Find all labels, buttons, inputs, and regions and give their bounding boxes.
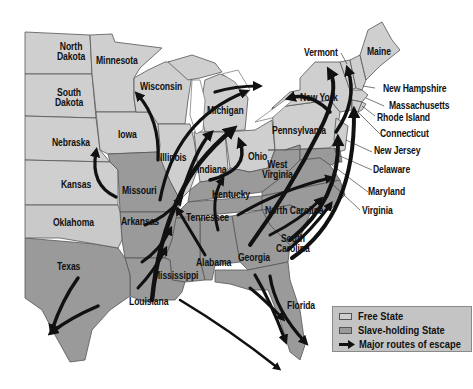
label-maryland: Maryland xyxy=(368,187,405,197)
legend-free-state: Free State xyxy=(339,310,411,322)
label-maine: Maine xyxy=(367,47,391,57)
label-tennessee: Tennessee xyxy=(186,213,229,223)
free-state-swatch xyxy=(339,313,352,320)
slave-state-swatch xyxy=(339,327,352,334)
label-delaware: Delaware xyxy=(373,165,410,175)
label-georgia: Georgia xyxy=(238,253,270,263)
label-connecticut: Connecticut xyxy=(380,129,429,139)
label-north-dakota: North Dakota xyxy=(57,42,85,62)
label-oklahoma: Oklahoma xyxy=(53,218,94,228)
lake-michigan xyxy=(190,80,205,134)
label-alabama: Alabama xyxy=(196,258,231,268)
label-michigan: Michigan xyxy=(207,106,244,116)
label-virginia: Virginia xyxy=(362,206,393,216)
label-iowa: Iowa xyxy=(118,130,137,140)
label-louisiana: Louisiana xyxy=(129,297,168,307)
label-south-carolina: South Carolina xyxy=(276,234,310,254)
label-illinois: Illinois xyxy=(160,153,187,163)
label-north-carolina: North Carolina xyxy=(265,206,324,216)
label-vermont: Vermont xyxy=(304,48,338,58)
label-texas: Texas xyxy=(57,262,80,272)
label-nebraska: Nebraska xyxy=(52,138,90,148)
label-mississippi: Mississippi xyxy=(153,271,198,281)
label-minnesota: Minnesota xyxy=(96,56,138,66)
label-rhode-island: Rhode Island xyxy=(377,113,430,123)
label-missouri: Missouri xyxy=(122,186,157,196)
label-massachusetts: Massachusetts xyxy=(389,101,450,111)
label-kentucky: Kentucky xyxy=(212,190,250,200)
legend-slave-state: Slave-holding State xyxy=(339,324,460,336)
label-west-virginia: West Virginia xyxy=(262,160,293,180)
state-florida xyxy=(215,262,305,360)
label-kansas: Kansas xyxy=(61,180,91,190)
route-louisiana-sea xyxy=(180,300,278,368)
label-new-york: New York xyxy=(300,93,338,103)
label-florida: Florida xyxy=(287,301,315,311)
label-indiana: Indiana xyxy=(197,165,227,175)
label-new-hampshire: New Hampshire xyxy=(383,84,446,94)
label-south-dakota: South Dakota xyxy=(55,88,83,108)
label-pennsylvania: Pennsylvania xyxy=(272,126,326,136)
map-legend: Free State Slave-holding State Major rou… xyxy=(332,306,472,352)
state-texas xyxy=(25,238,130,362)
label-wisconsin: Wisconsin xyxy=(140,82,182,92)
label-arkansas: Arkansas xyxy=(121,217,159,227)
arrow-right-icon xyxy=(339,340,355,349)
label-new-jersey: New Jersey xyxy=(374,146,420,156)
legend-routes: Major routes of escape xyxy=(339,338,473,350)
